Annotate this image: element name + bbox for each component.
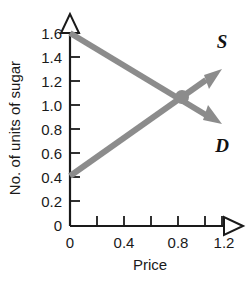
- y-tick-label-0.4: 0.4: [41, 169, 62, 186]
- y-tick-label-1.6: 1.6: [41, 25, 62, 42]
- x-axis-ticks: [70, 216, 222, 226]
- y-tick-label-0: 0: [54, 217, 62, 234]
- y-tick-label-1.4: 1.4: [41, 49, 62, 66]
- y-axis-arrow-icon: [61, 14, 79, 33]
- x-tick-label-1.2: 1.2: [214, 234, 235, 251]
- supply-demand-chart: 1.6 1.4 1.2 1.0 0.8 0.6 0.4 0.2 0 0 0.4 …: [0, 0, 246, 283]
- x-axis-title: Price: [133, 256, 167, 273]
- x-tick-label-0.8: 0.8: [168, 234, 189, 251]
- supply-curve: [70, 69, 222, 176]
- demand-curve-label: D: [214, 135, 229, 156]
- y-tick-label-0.6: 0.6: [41, 145, 62, 162]
- x-tick-label-0.4: 0.4: [114, 234, 135, 251]
- x-axis-tick-labels: 0 0.4 0.8 1.2: [66, 234, 235, 251]
- y-axis-title: No. of units of sugar: [6, 61, 23, 195]
- x-tick-label-0: 0: [66, 234, 74, 251]
- y-tick-label-1.0: 1.0: [41, 97, 62, 114]
- y-axis-tick-labels: 1.6 1.4 1.2 1.0 0.8 0.6 0.4 0.2 0: [41, 25, 62, 234]
- demand-curve: [70, 33, 222, 124]
- x-axis-arrow-icon: [224, 217, 243, 235]
- y-tick-label-1.2: 1.2: [41, 73, 62, 90]
- y-tick-label-0.2: 0.2: [41, 193, 62, 210]
- supply-curve-label: S: [217, 31, 228, 52]
- y-tick-label-0.8: 0.8: [41, 121, 62, 138]
- chart-canvas: 1.6 1.4 1.2 1.0 0.8 0.6 0.4 0.2 0 0 0.4 …: [0, 0, 246, 283]
- equilibrium-point-marker: [175, 90, 189, 104]
- demand-arrowhead-icon: [203, 105, 222, 124]
- supply-arrowhead-icon: [204, 69, 222, 89]
